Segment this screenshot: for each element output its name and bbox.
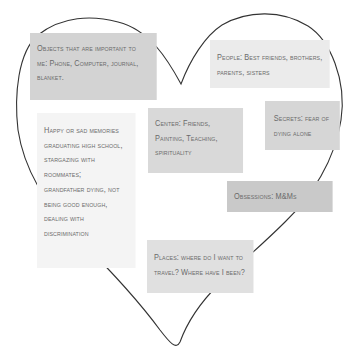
note-places-line-2: travel? Where have I been? — [154, 265, 248, 280]
note-obsessions-line-1: Obsessions: M&Ms — [234, 189, 327, 204]
note-people-line-2: parents, sisters — [217, 65, 324, 80]
note-secrets-line-2: dying alone — [274, 126, 335, 141]
note-people: People: Best friends, brothers, parents,… — [210, 40, 330, 88]
note-objects-line-3: blanket. — [37, 70, 151, 85]
note-memories: Happy or sad memories graduating high sc… — [37, 113, 136, 268]
note-memories-line-3: stargazing with — [44, 152, 130, 167]
note-memories-line-6: being good enough, — [44, 197, 130, 212]
note-memories-line-1: Happy or sad memories — [44, 123, 130, 138]
note-memories-line-5: grandfather dying, not — [44, 182, 130, 197]
note-places: Places: where do I want to travel? Where… — [147, 240, 253, 293]
note-people-line-1: People: Best friends, brothers, — [217, 50, 324, 65]
note-memories-line-4: roommates; — [44, 167, 130, 182]
note-memories-line-7: dealing with — [44, 211, 130, 226]
note-center-line-3: spirituality — [155, 145, 238, 160]
note-secrets-line-1: Secrets: fear of — [274, 111, 335, 126]
note-obsessions: Obsessions: M&Ms — [227, 181, 333, 212]
note-objects-line-1: Objects that are important to — [37, 41, 151, 56]
note-memories-line-8: discrimination — [44, 226, 130, 241]
note-center-line-2: Painting, Teaching, — [155, 131, 238, 146]
note-objects-line-2: me: Phone, Computer, journal, — [37, 56, 151, 71]
note-objects: Objects that are important to me: Phone,… — [30, 33, 157, 100]
note-center: Center: Friends, Painting, Teaching, spi… — [148, 108, 243, 173]
note-secrets: Secrets: fear of dying alone — [265, 101, 340, 150]
note-center-line-1: Center: Friends, — [155, 116, 238, 131]
note-memories-line-2: graduating high school, — [44, 138, 130, 153]
note-places-line-1: Places: where do I want to — [154, 250, 248, 265]
